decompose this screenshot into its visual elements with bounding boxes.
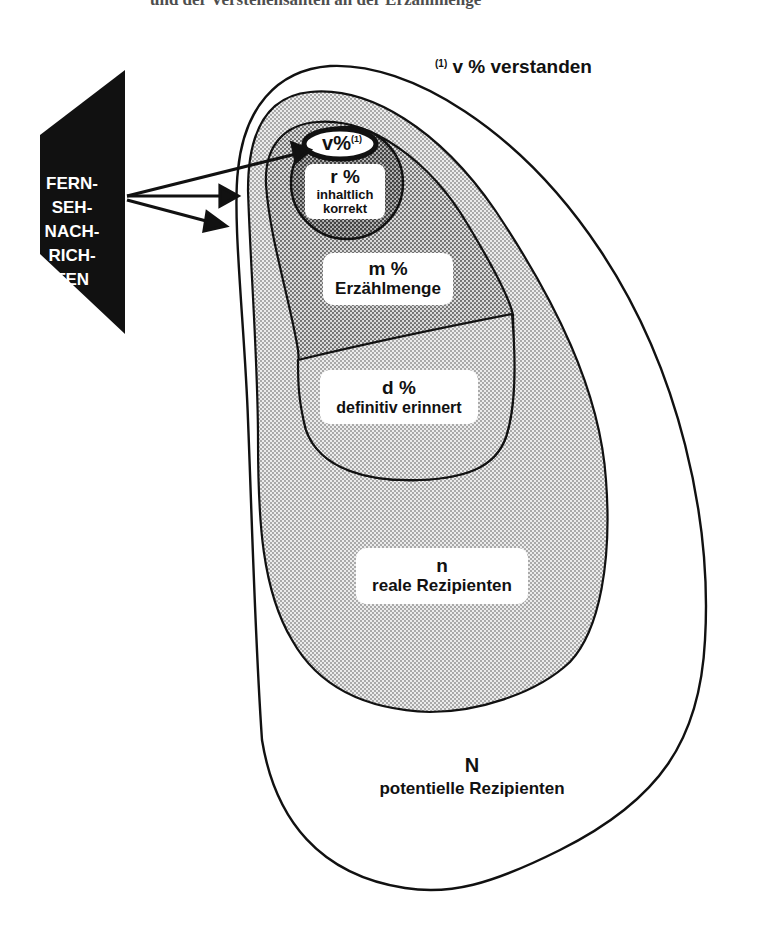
footnote-text: v % verstanden bbox=[453, 56, 592, 77]
tv-label-line: NACH- bbox=[40, 220, 104, 244]
label-v-symbol: v% bbox=[322, 132, 351, 154]
label-v: v%(1) bbox=[312, 132, 372, 154]
label-n: n reale Rezipienten bbox=[356, 548, 528, 604]
label-d-symbol: d % bbox=[320, 378, 478, 399]
label-r-symbol: r % bbox=[305, 167, 385, 188]
label-m-symbol: m % bbox=[323, 259, 453, 280]
tv-news-label: FERN- SEH- NACH- RICH- TEN bbox=[40, 172, 104, 292]
tv-label-line: SEH- bbox=[40, 196, 104, 220]
label-d-text: definitiv erinnert bbox=[320, 399, 478, 417]
label-d: d % definitiv erinnert bbox=[320, 370, 478, 424]
label-r-line2: korrekt bbox=[305, 202, 385, 216]
label-n-text: reale Rezipienten bbox=[356, 577, 528, 596]
label-v-marker: (1) bbox=[351, 134, 362, 144]
footnote-legend: (1) v % verstanden bbox=[435, 56, 592, 78]
footnote-marker: (1) bbox=[435, 58, 447, 69]
label-r: r % inhaltlich korrekt bbox=[305, 164, 385, 219]
tv-label-line: TEN bbox=[40, 268, 104, 292]
label-N: N potentielle Rezipienten bbox=[372, 754, 572, 799]
label-n-symbol: n bbox=[356, 556, 528, 577]
label-N-text: potentielle Rezipienten bbox=[372, 780, 572, 799]
label-m: m % Erzählmenge bbox=[323, 253, 453, 305]
arrow-head-to-n bbox=[204, 212, 226, 231]
label-N-symbol: N bbox=[372, 754, 572, 776]
label-r-line1: inhaltlich bbox=[305, 188, 385, 202]
tv-label-line: FERN- bbox=[40, 172, 104, 196]
label-m-text: Erzählmenge bbox=[323, 280, 453, 299]
tv-label-line: RICH- bbox=[40, 244, 104, 268]
